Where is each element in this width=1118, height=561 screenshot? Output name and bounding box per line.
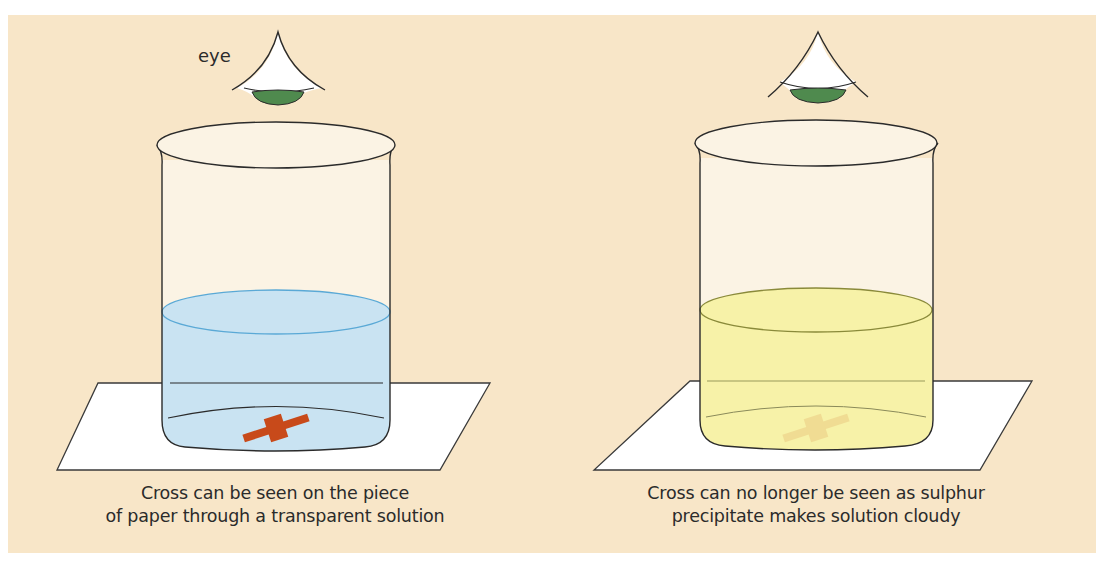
beaker-rim-right	[695, 120, 937, 166]
caption-left-line1: Cross can be seen on the piece	[60, 482, 490, 505]
experiment-diagram	[0, 0, 1118, 561]
caption-left: Cross can be seen on the piece of paper …	[60, 482, 490, 528]
caption-right-line1: Cross can no longer be seen as sulphur	[596, 482, 1036, 505]
eye-label: eye	[198, 45, 231, 66]
eye-icon-left	[232, 32, 325, 105]
eye-icon-right	[768, 32, 868, 103]
beaker-rim-left	[157, 122, 395, 168]
caption-left-line2: of paper through a transparent solution	[60, 505, 490, 528]
caption-right: Cross can no longer be seen as sulphur p…	[596, 482, 1036, 528]
caption-right-line2: precipitate makes solution cloudy	[596, 505, 1036, 528]
right-setup	[594, 120, 1032, 470]
left-setup	[57, 122, 490, 470]
